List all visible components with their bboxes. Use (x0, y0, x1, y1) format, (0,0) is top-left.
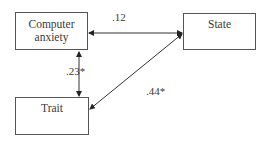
node-label: Trait (41, 102, 63, 115)
coefficient-ca-state: .12 (112, 11, 126, 23)
coefficient-trait-state: .44* (146, 85, 165, 97)
coefficient-ca-trait: .23* (66, 65, 85, 77)
node-trait: Trait (15, 97, 89, 135)
node-label: State (208, 18, 231, 31)
node-state: State (183, 13, 256, 50)
node-label-line: Computer (29, 18, 75, 31)
edge-trait-state (90, 34, 182, 109)
node-computer-anxiety: Computer anxiety (15, 12, 88, 50)
node-label-line: anxiety (29, 31, 75, 44)
